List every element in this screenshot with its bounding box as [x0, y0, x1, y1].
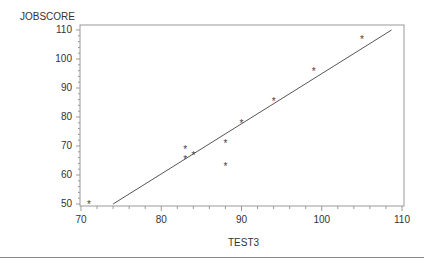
- data-point-marker: *: [223, 138, 227, 149]
- y-tick-label: 60: [42, 169, 72, 180]
- x-tick-label: 100: [307, 214, 337, 225]
- x-tick-label: 110: [387, 214, 417, 225]
- data-point-marker: *: [272, 96, 276, 107]
- scatter-chart: **********: [0, 0, 424, 263]
- data-point-marker: *: [240, 118, 244, 129]
- y-tick-label: 100: [42, 53, 72, 64]
- data-point-marker: *: [183, 154, 187, 165]
- data-points: **********: [87, 34, 364, 210]
- data-point-marker: *: [360, 34, 364, 45]
- y-axis-title: JOBSCORE: [20, 11, 75, 22]
- data-point-marker: *: [223, 161, 227, 172]
- data-point-marker: *: [87, 199, 91, 210]
- y-tick-label: 110: [42, 24, 72, 35]
- regression-line: [113, 30, 391, 204]
- x-axis-title: TEST3: [228, 237, 259, 248]
- y-tick-label: 50: [42, 198, 72, 209]
- x-tick-label: 70: [66, 214, 96, 225]
- data-point-marker: *: [191, 150, 195, 161]
- data-point-marker: *: [312, 66, 316, 77]
- y-tick-label: 80: [42, 111, 72, 122]
- divider: [0, 257, 424, 258]
- y-tick-label: 90: [42, 82, 72, 93]
- y-tick-label: 70: [42, 140, 72, 151]
- x-tick-label: 90: [227, 214, 257, 225]
- x-tick-label: 80: [146, 214, 176, 225]
